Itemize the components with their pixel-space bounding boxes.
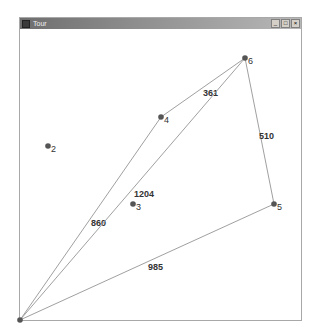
edges-layer: 8603611204510985 (20, 58, 274, 320)
node-1[interactable] (17, 317, 23, 323)
node-label: 6 (248, 56, 253, 66)
node-label: 2 (51, 144, 56, 154)
edge-weight-label: 510 (259, 131, 274, 141)
node-6[interactable] (242, 55, 248, 61)
node-2[interactable] (45, 143, 51, 149)
edge-5-1 (20, 204, 274, 320)
node-4[interactable] (158, 114, 164, 120)
graph-canvas: 8603611204510985 23456 (0, 0, 316, 334)
node-label: 5 (277, 202, 282, 212)
node-label: 4 (164, 115, 169, 125)
edge-weight-label: 1204 (134, 189, 154, 199)
node-5[interactable] (271, 201, 277, 207)
node-label: 3 (136, 202, 141, 212)
edge-weight-label: 361 (203, 88, 218, 98)
edge-1-6 (20, 58, 245, 320)
node-3[interactable] (130, 201, 136, 207)
edge-weight-label: 985 (148, 262, 163, 272)
